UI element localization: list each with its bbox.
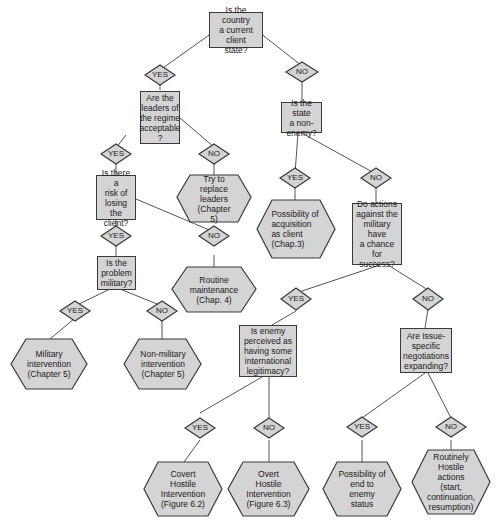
- question-risk-losing: Is there a risk of losing the client?: [96, 175, 136, 220]
- outcome-routinely-hostile-text: Routinely Hostile actions (start, contin…: [427, 452, 475, 512]
- question-non-enemy: Is the state a non- enemy?: [281, 102, 322, 133]
- question-negotiations: Are Issue- specific negotiations expandi…: [400, 328, 452, 373]
- outcome-end-enemy-text: Possibility of end to enemy status: [338, 469, 385, 509]
- outcome-end-enemy: Possibility of end to enemy status: [326, 462, 398, 516]
- question-client-state: Is the country a current client state?: [209, 12, 263, 48]
- outcome-nonmilitary-intervention: Non-military intervention (Chapter 5): [127, 339, 199, 389]
- question-leaders-acceptable-text: Are the leaders of the regime acceptable…: [139, 93, 180, 143]
- label-yes-non-enemy: YES: [280, 173, 310, 183]
- label-no-non-enemy: NO: [361, 173, 391, 183]
- outcome-replace-leaders: Try to replace leaders (Chapter 5): [180, 175, 248, 222]
- label-no-problem: NO: [147, 306, 177, 316]
- outcome-acquisition: Possibility of acquisition as client (Ch…: [262, 200, 328, 258]
- label-yes-negotiations: YES: [347, 422, 377, 432]
- outcome-nonmilitary-intervention-text: Non-military intervention (Chapter 5): [140, 349, 185, 379]
- question-client-state-text: Is the country a current client state?: [212, 5, 260, 55]
- label-yes-legitimacy: YES: [185, 423, 215, 433]
- question-problem-military-text: Is the problem military?: [101, 258, 133, 288]
- outcome-overt-hostile: Overt Hostile Intervention (Figure 6.3): [231, 462, 306, 516]
- label-yes-root: YES: [145, 70, 175, 80]
- outcome-routine-maintenance-text: Routine maintenance (Chap. 4): [190, 275, 239, 305]
- outcome-military-intervention-text: Military intervention (Chapter 5): [27, 349, 71, 379]
- label-no-legitimacy: NO: [254, 423, 284, 433]
- question-negotiations-text: Are Issue- specific negotiations expandi…: [403, 331, 449, 371]
- outcome-acquisition-text: Possibility of acquisition as client (Ch…: [271, 209, 318, 249]
- question-actions-military: Do actions against the military have a c…: [352, 203, 402, 265]
- label-no-leaders: NO: [199, 149, 229, 159]
- question-problem-military: Is the problem military?: [97, 256, 136, 290]
- label-yes-problem: YES: [60, 306, 90, 316]
- question-enemy-legitimacy: Is enemy perceived as having some intern…: [239, 325, 297, 377]
- outcome-routine-maintenance: Routine maintenance (Chap. 4): [176, 267, 252, 312]
- outcome-covert-hostile-text: Covert Hostile Intervention (Figure 6.2): [161, 469, 205, 509]
- question-enemy-legitimacy-text: Is enemy perceived as having some intern…: [244, 326, 292, 376]
- flowchart-canvas: [0, 0, 501, 527]
- label-no-risk: NO: [199, 231, 229, 241]
- label-yes-risk: YES: [101, 231, 131, 241]
- outcome-covert-hostile: Covert Hostile Intervention (Figure 6.2): [147, 462, 219, 516]
- label-yes-leaders: YES: [101, 149, 131, 159]
- question-risk-losing-text: Is there a risk of losing the client?: [99, 168, 133, 228]
- label-no-root: NO: [286, 67, 318, 77]
- outcome-military-intervention: Military intervention (Chapter 5): [14, 339, 84, 389]
- question-actions-military-text: Do actions against the military have a c…: [355, 199, 399, 269]
- outcome-overt-hostile-text: Overt Hostile Intervention (Figure 6.3): [246, 469, 290, 509]
- label-no-negotiations: NO: [436, 422, 466, 432]
- outcome-routinely-hostile: Routinely Hostile actions (start, contin…: [414, 450, 488, 514]
- label-yes-actions: YES: [281, 294, 311, 304]
- question-leaders-acceptable: Are the leaders of the regime acceptable…: [140, 91, 180, 144]
- outcome-replace-leaders-text: Try to replace leaders (Chapter 5): [197, 174, 230, 224]
- question-non-enemy-text: Is the state a non- enemy?: [284, 98, 319, 138]
- label-no-actions: NO: [413, 294, 443, 304]
